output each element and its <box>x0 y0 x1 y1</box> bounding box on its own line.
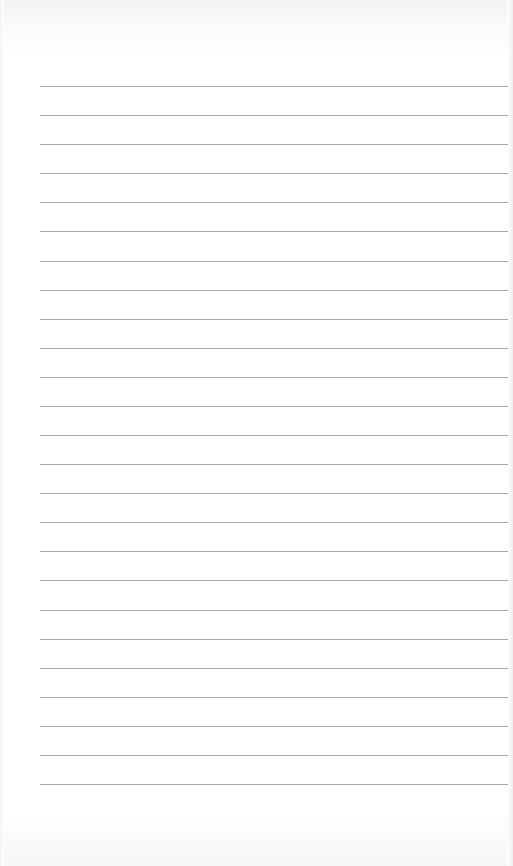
ruled-line <box>40 580 508 581</box>
ruled-line <box>40 493 508 494</box>
ruled-line <box>40 726 508 727</box>
ruled-line <box>40 202 508 203</box>
ruled-line <box>40 261 508 262</box>
ruled-line <box>40 755 508 756</box>
ruled-line <box>40 144 508 145</box>
ruled-line <box>40 348 508 349</box>
ruled-line <box>40 551 508 552</box>
ruled-line <box>40 173 508 174</box>
ruled-line <box>40 784 508 785</box>
ruled-line <box>40 406 508 407</box>
ruled-line <box>40 668 508 669</box>
ruled-line <box>40 697 508 698</box>
lined-paper-page <box>0 0 513 866</box>
ruled-line <box>40 435 508 436</box>
ruled-line <box>40 231 508 232</box>
ruled-line <box>40 639 508 640</box>
paper-left-edge <box>0 0 4 866</box>
ruled-line <box>40 319 508 320</box>
ruled-line <box>40 464 508 465</box>
ruled-line <box>40 377 508 378</box>
ruled-line <box>40 610 508 611</box>
paper-right-edge <box>507 0 513 866</box>
ruled-line <box>40 522 508 523</box>
ruled-line <box>40 86 508 87</box>
ruled-line <box>40 290 508 291</box>
ruled-line <box>40 115 508 116</box>
